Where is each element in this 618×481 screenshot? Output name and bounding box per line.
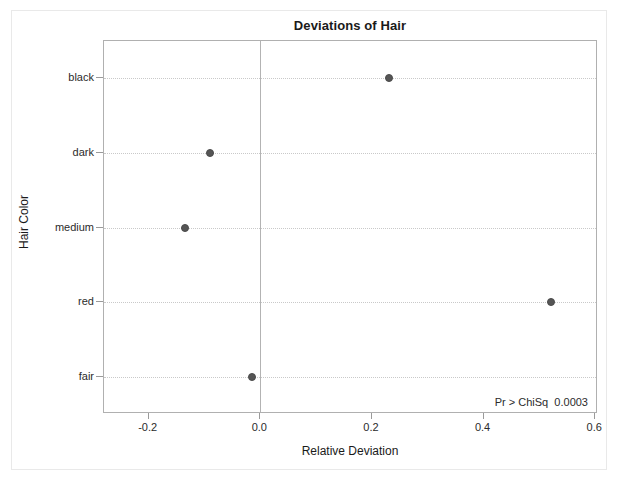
y-tick-mark-fair [96, 376, 103, 377]
gridline-red [104, 302, 596, 303]
y-tick-mark-red [96, 301, 103, 302]
data-point-dark [206, 149, 214, 157]
x-axis-title: Relative Deviation [103, 444, 597, 458]
y-tick-label-dark: dark [8, 146, 94, 158]
x-tick-mark-0.4 [483, 413, 484, 419]
data-point-medium [181, 224, 189, 232]
chart-figure: Deviations of Hair Hair Color Relative D… [0, 0, 618, 481]
y-tick-label-black: black [8, 71, 94, 83]
p-value-annotation: Pr > ChiSq 0.0003 [495, 396, 588, 408]
x-tick-label-0.6: 0.6 [559, 421, 618, 433]
y-tick-label-medium: medium [8, 221, 94, 233]
gridline-medium [104, 228, 596, 229]
zero-reference-line [260, 41, 261, 412]
data-point-black [385, 74, 393, 82]
x-tick-mark-0.2 [371, 413, 372, 419]
y-tick-mark-black [96, 77, 103, 78]
x-tick-label-0.4: 0.4 [448, 421, 518, 433]
data-point-red [547, 298, 555, 306]
data-point-fair [248, 373, 256, 381]
chart-title: Deviations of Hair [103, 18, 597, 33]
x-tick-mark-0.0 [259, 413, 260, 419]
plot-area: Pr > ChiSq 0.0003 [103, 40, 597, 413]
x-tick-mark-0.6 [594, 413, 595, 419]
x-tick-mark--0.2 [148, 413, 149, 419]
y-tick-label-fair: fair [8, 370, 94, 382]
x-tick-label-0.0: 0.0 [224, 421, 294, 433]
y-tick-mark-medium [96, 227, 103, 228]
x-tick-label--0.2: -0.2 [113, 421, 183, 433]
y-tick-mark-dark [96, 152, 103, 153]
x-tick-label-0.2: 0.2 [336, 421, 406, 433]
y-tick-label-red: red [8, 295, 94, 307]
gridline-dark [104, 153, 596, 154]
gridline-black [104, 78, 596, 79]
gridline-fair [104, 377, 596, 378]
